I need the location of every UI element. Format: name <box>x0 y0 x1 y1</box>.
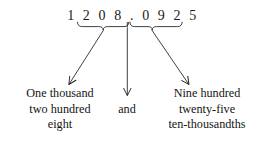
integer-connector-arrow <box>69 31 103 84</box>
fraction-label-line-3: ten-thousandths <box>150 117 264 133</box>
fraction-connector-arrow <box>152 31 188 84</box>
decimal-place-value-figure: 1 2 0 8 . 0 9 2 5 One thousand two hundr… <box>0 0 266 144</box>
conjunction-label-line-1: and <box>101 102 153 118</box>
integer-underbrace <box>78 22 129 30</box>
fraction-label-line-2: twenty-five <box>150 102 264 118</box>
integer-part-label: One thousand two hundred eight <box>4 86 116 133</box>
integer-label-line-2: two hundred <box>4 102 116 118</box>
integer-label-line-1: One thousand <box>4 86 116 102</box>
fraction-underbrace <box>130 22 182 30</box>
integer-label-line-3: eight <box>4 117 116 133</box>
decimal-point-label: and <box>101 102 153 118</box>
fraction-part-label: Nine hundred twenty-five ten-thousandths <box>150 86 264 133</box>
decimal-number: 1 2 0 8 . 0 9 2 5 <box>0 8 266 23</box>
fraction-label-line-1: Nine hundred <box>150 86 264 102</box>
